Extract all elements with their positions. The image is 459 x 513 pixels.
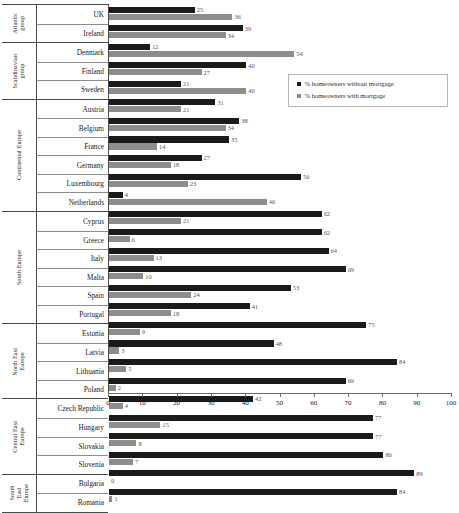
bar-value-with-mortgage: 23 [190,181,196,187]
group-country-list: AustriaBelgiumFranceGermanyLuxembourgNet… [36,100,108,211]
bar-value-without-mortgage: 56 [303,174,309,180]
group-label-text: Atlantic group [12,13,26,34]
bar-with-mortgage [109,14,232,20]
x-tick-mark [314,393,315,397]
group-country-list: EstoniaLatviaLithuaniaPoland [36,324,108,398]
bar-value-with-mortgage: 21 [183,218,189,224]
bar-without-mortgage [109,396,253,402]
country-label: Ireland [36,24,108,43]
bar-value-without-mortgage: 84 [399,489,405,495]
bar-with-mortgage [109,496,112,502]
bar-without-mortgage [109,359,397,365]
bar-with-mortgage [109,255,154,261]
x-tick-label: 100 [446,399,457,407]
bar-without-mortgage [109,248,329,254]
country-label: Slovenia [36,455,108,474]
group-country-list: BulgariaRomania [36,475,108,512]
bar-row: 6221 [108,208,451,227]
bar-without-mortgage [109,229,322,235]
country-label: Czech Republic [36,399,108,418]
country-label: Sweden [36,80,108,99]
country-label: Denmark [36,43,108,62]
bar-value-with-mortgage: 13 [156,255,162,261]
bar-with-mortgage [109,162,171,168]
bar-value-without-mortgage: 25 [197,7,203,13]
country-label: Lithuania [36,361,108,380]
bar-without-mortgage [109,285,291,291]
bar-without-mortgage [109,136,229,142]
country-label: Finland [36,62,108,81]
country-group: Central East EuropeCzech RepublicHungary… [2,398,108,473]
country-label: Portugal [36,305,108,324]
chart-legend: % homeowners without mortgage % homeowne… [288,74,448,107]
x-tick-mark [417,393,418,397]
bar-without-mortgage [109,192,123,198]
country-label: Cyprus [36,212,108,231]
bar-row: 890 [108,468,451,487]
country-label: Bulgaria [36,475,108,494]
bar-without-mortgage [109,118,239,124]
bar-with-mortgage [109,440,136,446]
bar-row: 4118 [108,301,451,320]
bar-value-with-mortgage: 3 [121,348,124,354]
bar-row: 692 [108,375,451,394]
country-label: Latvia [36,343,108,362]
bar-value-with-mortgage: 4 [125,403,128,409]
bar-without-mortgage [109,99,215,105]
x-axis-title: % [108,414,451,423]
bar-row: 5324 [108,282,451,301]
bar-value-with-mortgage: 9 [142,329,145,335]
bar-row: 841 [108,486,451,505]
bar-value-without-mortgage: 80 [385,452,391,458]
bar-without-mortgage [109,155,202,161]
bar-value-without-mortgage: 4 [125,192,128,198]
bar-value-without-mortgage: 42 [255,396,261,402]
country-label: Austria [36,100,108,119]
bar-without-mortgage [109,174,301,180]
bar-with-mortgage [109,366,126,372]
legend-label-without-mortgage: % homeowners without mortgage [305,80,394,87]
bar-without-mortgage [109,7,195,13]
bar-with-mortgage [109,199,267,205]
group-label: Continental Europe [2,100,36,211]
country-group: South East EuropeBulgariaRomania [2,474,108,513]
bar-with-mortgage [109,181,188,187]
bar-row: 2536 [108,4,451,23]
bar-value-without-mortgage: 64 [331,248,337,254]
bar-value-with-mortgage: 27 [204,70,210,76]
bar-value-with-mortgage: 14 [159,144,165,150]
bar-with-mortgage [109,385,116,391]
country-label: Belgium [36,118,108,137]
bar-row: 759 [108,319,451,338]
bar-with-mortgage [109,329,140,335]
country-label: UK [36,5,108,24]
bar-without-mortgage [109,470,414,476]
group-country-list: CyprusGreeceItalyMaltaSpainPortugal [36,212,108,323]
bar-value-without-mortgage: 31 [217,100,223,106]
bar-without-mortgage [109,211,322,217]
country-group: South EuropeCyprusGreeceItalyMaltaSpainP… [2,211,108,323]
country-label: Greece [36,231,108,250]
bar-value-with-mortgage: 1 [114,496,117,502]
bar-without-mortgage [109,452,383,458]
bar-without-mortgage [109,303,250,309]
group-label: Scandinavian group [2,43,36,99]
x-tick-mark [108,393,109,397]
country-label: Spain [36,286,108,305]
bar-value-with-mortgage: 34 [228,33,234,39]
bar-value-with-mortgage: 54 [296,51,302,57]
bar-row: 3934 [108,23,451,42]
bar-value-without-mortgage: 62 [324,230,330,236]
bar-value-with-mortgage: 34 [228,125,234,131]
bar-row: 6910 [108,264,451,283]
bar-value-with-mortgage: 8 [138,441,141,447]
plot-area: 2536393412544027214031213834351427185623… [108,4,451,393]
bar-value-without-mortgage: 38 [241,118,247,124]
x-tick-label: 80 [379,399,386,407]
bar-without-mortgage [109,266,346,272]
country-label: Luxembourg [36,174,108,193]
bar-value-with-mortgage: 18 [173,311,179,317]
bar-value-without-mortgage: 77 [375,434,381,440]
bar-value-with-mortgage: 10 [145,274,151,280]
